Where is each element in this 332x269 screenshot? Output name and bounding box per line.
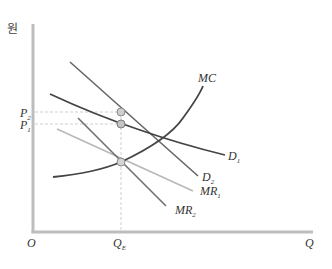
mr2-label: MR2 [174, 203, 196, 219]
mc-curve [53, 86, 203, 177]
origin-label: O [27, 236, 36, 250]
monopoly-diagram: 원 P2 P1 O QE Q MC D1 D2 MR1 MR2 [0, 0, 332, 269]
p2-point [117, 108, 125, 116]
diagram-svg: 원 P2 P1 O QE Q MC D1 D2 MR1 MR2 [0, 0, 332, 269]
mc-label: MC [197, 71, 217, 85]
d2-curve [70, 62, 198, 176]
y-axis-label: 원 [7, 22, 18, 36]
p1-point [117, 120, 125, 128]
d1-label: D1 [227, 149, 240, 165]
mr1-label: MR1 [199, 184, 221, 200]
equilibrium-point [117, 158, 125, 166]
qe-label: QE [113, 236, 127, 252]
x-axis-label: Q [305, 236, 314, 250]
